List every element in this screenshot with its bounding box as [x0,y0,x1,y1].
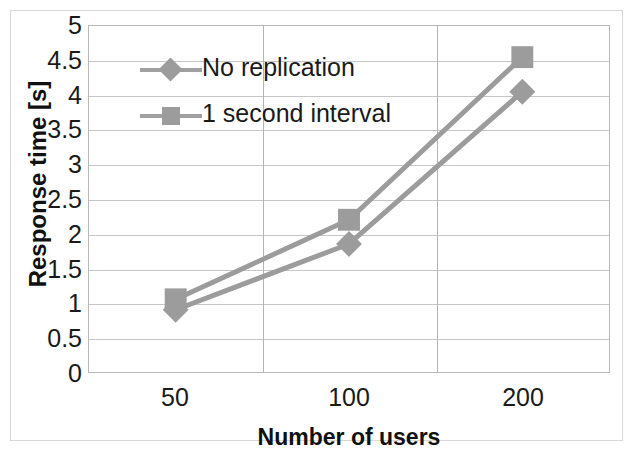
series-marker-square [511,46,533,68]
legend-label: 1 second interval [202,98,391,129]
x-axis-tick-label: 200 [463,385,583,410]
legend-marker-square-icon [140,100,202,130]
series-marker-square [165,288,187,310]
y-axis-title: Response time [s] [24,54,52,314]
legend-key-marker [162,107,180,125]
series-marker-square [338,209,360,231]
y-axis-tick-label: 5 [4,13,82,38]
legend-item: 1 second interval [140,98,430,130]
y-axis-tick-label: 0.5 [4,326,82,351]
x-axis-tick-label: 100 [289,385,409,410]
legend-key-marker [158,57,182,81]
x-axis-tick-label: 50 [115,385,235,410]
chart-legend: No replication1 second interval [140,52,430,144]
chart-figure: 00.511.522.533.544.55 Response time [s] … [0,0,635,453]
legend-marker-diamond-icon [140,54,202,84]
x-axis-title: Number of users [88,424,610,451]
legend-item: No replication [140,52,430,84]
legend-label: No replication [202,52,355,83]
y-axis-tick-label: 0 [4,361,82,386]
